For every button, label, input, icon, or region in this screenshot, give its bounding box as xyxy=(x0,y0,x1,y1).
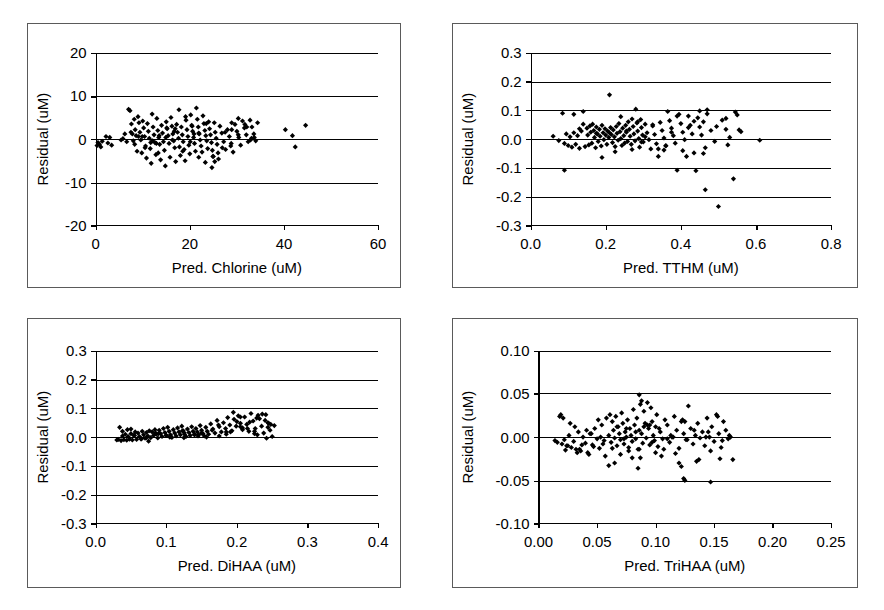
data-point xyxy=(213,130,218,135)
y-tick-label-0: -20 xyxy=(65,218,87,234)
y-tick-label-2: 0 xyxy=(78,132,86,148)
data-point xyxy=(270,434,275,439)
data-point xyxy=(215,418,220,423)
y-tick-label-0: -0.3 xyxy=(61,516,87,532)
data-point xyxy=(659,454,664,459)
data-point xyxy=(695,421,700,426)
data-point xyxy=(690,131,695,136)
data-point xyxy=(708,128,713,133)
data-point xyxy=(151,132,156,137)
y-tick-label-4: 0.10 xyxy=(501,343,530,359)
data-point xyxy=(731,176,736,181)
data-point xyxy=(150,124,155,129)
data-point xyxy=(720,438,725,443)
data-point xyxy=(686,403,691,408)
data-point xyxy=(556,138,561,143)
y-tick-label-4: 0.1 xyxy=(501,103,522,119)
data-point xyxy=(610,446,615,451)
data-point xyxy=(625,417,630,422)
data-point xyxy=(656,146,661,151)
data-point xyxy=(613,149,618,154)
data-point xyxy=(697,124,702,129)
data-point xyxy=(663,143,668,148)
y-tick-label-3: 0.0 xyxy=(501,132,522,148)
data-point xyxy=(644,435,649,440)
data-point xyxy=(717,456,722,461)
data-point xyxy=(176,107,181,112)
data-point xyxy=(200,113,205,118)
y-axis-title: Residual (uM) xyxy=(35,391,51,484)
data-point xyxy=(709,424,714,429)
y-tick-label-3: 0.05 xyxy=(501,386,530,402)
data-point xyxy=(584,428,589,433)
data-point xyxy=(571,112,576,117)
data-point xyxy=(178,153,183,158)
data-point xyxy=(599,143,604,148)
data-point xyxy=(645,400,650,405)
data-point xyxy=(626,448,631,453)
y-tick-label-0: -0.10 xyxy=(496,516,530,532)
data-point xyxy=(568,421,573,426)
panel-tthm: -0.3-0.2-0.10.00.10.20.30.00.20.40.60.8P… xyxy=(452,23,858,288)
data-point xyxy=(706,429,711,434)
data-point xyxy=(610,140,615,145)
data-point xyxy=(571,439,576,444)
residual-plots-figure: -20-10010200204060Pred. Chlorine (uM)Res… xyxy=(0,0,884,610)
data-point xyxy=(221,420,226,425)
data-point xyxy=(716,204,721,209)
data-point xyxy=(581,109,586,114)
data-point xyxy=(634,416,639,421)
data-point xyxy=(135,114,140,119)
data-point xyxy=(691,150,696,155)
data-point xyxy=(599,123,604,128)
data-point xyxy=(662,417,667,422)
data-point xyxy=(260,412,265,417)
data-point xyxy=(255,120,260,125)
data-point xyxy=(165,425,170,430)
y-tick-label-1: -0.2 xyxy=(496,189,522,205)
data-point xyxy=(303,123,308,128)
data-point xyxy=(559,441,564,446)
panel-trihaa: -0.10-0.050.000.050.100.000.050.100.150.… xyxy=(452,318,858,588)
x-tick-label-2: 40 xyxy=(276,236,293,252)
data-point xyxy=(203,133,208,138)
data-point xyxy=(703,145,708,150)
y-tick-label-4: 20 xyxy=(70,45,87,61)
x-tick-label-3: 0.3 xyxy=(297,534,318,550)
data-point xyxy=(563,447,568,452)
data-point xyxy=(691,119,696,124)
data-point xyxy=(697,108,702,113)
data-point xyxy=(635,128,640,133)
data-point xyxy=(234,424,239,429)
data-point xyxy=(187,151,192,156)
data-point xyxy=(244,132,249,137)
data-point xyxy=(674,428,679,433)
data-point xyxy=(621,441,626,446)
data-point xyxy=(604,142,609,147)
data-point xyxy=(643,122,648,127)
y-tick-label-5: 0.2 xyxy=(501,74,522,90)
data-point xyxy=(184,127,189,132)
data-point xyxy=(593,145,598,150)
data-point xyxy=(174,122,179,127)
data-point xyxy=(701,151,706,156)
x-tick-label-1: 0.1 xyxy=(156,534,177,550)
data-point xyxy=(168,115,173,120)
data-point xyxy=(632,422,637,427)
data-point xyxy=(719,445,724,450)
y-tick-label-1: -10 xyxy=(65,175,87,191)
data-point xyxy=(599,422,604,427)
data-point xyxy=(227,422,232,427)
data-point xyxy=(725,142,730,147)
panel-chlorine: -20-10010200204060Pred. Chlorine (uM)Res… xyxy=(27,23,401,288)
data-point xyxy=(261,431,266,436)
data-point xyxy=(163,163,168,168)
data-point xyxy=(573,142,578,147)
x-tick-label-4: 0.4 xyxy=(368,534,389,550)
data-point xyxy=(656,154,661,159)
data-point xyxy=(158,157,163,162)
data-points xyxy=(114,410,277,444)
data-point xyxy=(575,133,580,138)
data-point xyxy=(564,131,569,136)
data-point xyxy=(183,158,188,163)
